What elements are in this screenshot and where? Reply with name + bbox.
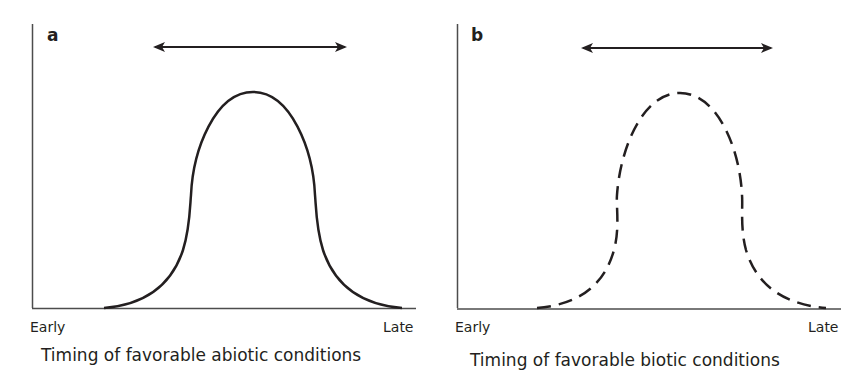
panel-label: b xyxy=(471,25,483,45)
x-end-label: Late xyxy=(383,319,413,335)
x-start-label: Early xyxy=(455,319,490,335)
panel-label: a xyxy=(47,25,58,45)
x-start-label: Early xyxy=(30,319,65,335)
biotic-curve xyxy=(537,93,826,308)
panel-a: a Early Late Timing of favorable abiotic… xyxy=(30,24,416,365)
x-axis-title: Timing of favorable biotic conditions xyxy=(469,350,780,370)
abiotic-curve xyxy=(104,92,402,308)
panel-b: b Early Late Timing of favorable biotic … xyxy=(455,24,841,370)
x-end-label: Late xyxy=(808,319,838,335)
figure: a Early Late Timing of favorable abiotic… xyxy=(0,0,864,380)
x-axis-title: Timing of favorable abiotic conditions xyxy=(40,345,361,365)
